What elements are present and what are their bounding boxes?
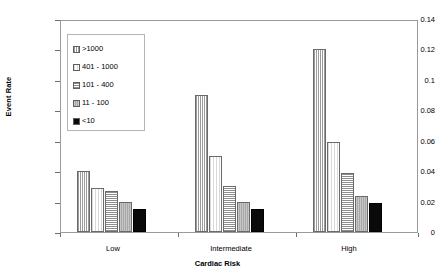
x-tick-label: High (289, 244, 409, 253)
legend-label: >1000 (82, 45, 103, 53)
bar (237, 202, 250, 232)
bar (209, 156, 222, 232)
bar-group-low (77, 171, 147, 232)
legend: >1000401 - 1000101 - 40011 - 100<10 (67, 34, 145, 131)
legend-swatch-icon (73, 100, 80, 107)
bar (327, 142, 340, 232)
x-tick-mark (60, 233, 61, 237)
bar-chart: Event Rate 0.140.120.10.080.060.040.020 … (0, 0, 435, 278)
legend-swatch-icon (73, 46, 80, 53)
legend-swatch-icon (73, 64, 80, 71)
bar-group-high (313, 49, 383, 232)
bar (119, 202, 132, 232)
legend-item: 101 - 400 (73, 76, 140, 94)
bar (223, 186, 236, 232)
bar (77, 171, 90, 232)
legend-label: <10 (82, 117, 95, 125)
legend-item: 11 - 100 (73, 94, 140, 112)
legend-label: 101 - 400 (82, 81, 114, 89)
x-tick-label: Intermediate (171, 244, 291, 253)
bar (369, 203, 382, 232)
bar-group-intermediate (195, 95, 265, 232)
bar (355, 196, 368, 233)
legend-label: 401 - 1000 (82, 63, 118, 71)
bar (133, 209, 146, 232)
bar (341, 173, 354, 232)
x-axis-title: Cardiac Risk (0, 259, 435, 268)
legend-swatch-icon (73, 118, 80, 125)
bar (251, 209, 264, 232)
bar (313, 49, 326, 232)
bar (195, 95, 208, 232)
bar (91, 188, 104, 232)
legend-swatch-icon (73, 82, 80, 89)
x-tick-mark (296, 233, 297, 237)
bar (105, 191, 118, 232)
legend-item: <10 (73, 112, 140, 130)
x-tick-mark (178, 233, 179, 237)
y-axis-title: Event Rate (4, 47, 13, 147)
legend-label: 11 - 100 (82, 99, 109, 107)
x-tick-mark (418, 233, 419, 237)
x-tick-label: Low (53, 244, 173, 253)
legend-item: 401 - 1000 (73, 58, 140, 76)
legend-item: >1000 (73, 40, 140, 58)
